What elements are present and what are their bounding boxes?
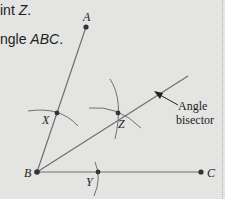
point-Y: [96, 170, 101, 175]
point-B: [34, 169, 40, 175]
ray-BA: [37, 27, 86, 172]
point-Z: [116, 111, 121, 116]
angle-bisector-ray: [37, 76, 188, 172]
callout-line-1: Angle: [178, 99, 207, 113]
label-A: A: [82, 10, 91, 24]
label-X: X: [41, 113, 50, 127]
label-B: B: [24, 166, 32, 180]
label-Y: Y: [86, 175, 94, 189]
point-X: [55, 111, 60, 116]
callout-line-2: bisector: [176, 113, 214, 127]
point-A: [83, 24, 88, 29]
textbook-page: int Z. ngle ABC. A B C X Y Z Angle bisec…: [0, 0, 225, 199]
label-Z: Z: [118, 117, 125, 131]
label-C: C: [207, 166, 216, 180]
callout-leader: [160, 95, 178, 105]
angle-bisector-diagram: A B C X Y Z Angle bisector: [0, 0, 225, 199]
arc-at-Y: [94, 162, 98, 196]
point-C: [198, 169, 203, 174]
